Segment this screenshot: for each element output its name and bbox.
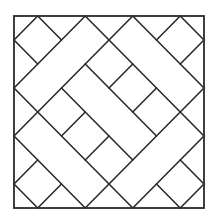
pattern-diagram	[0, 0, 212, 223]
square-frame	[14, 16, 204, 208]
